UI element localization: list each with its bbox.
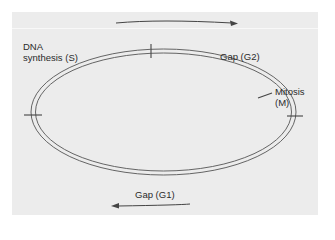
cycle-inner-ring xyxy=(36,53,292,171)
arrow-top-right-icon xyxy=(116,21,238,27)
cycle-outer-ring xyxy=(31,49,296,175)
tick-mitosis xyxy=(258,93,272,98)
phase-label-g1: Gap (G1) xyxy=(135,189,175,200)
phase-label-m: Mitosis (M) xyxy=(275,86,305,108)
phase-label-g2: Gap (G2) xyxy=(220,51,260,62)
phase-m-line2: (M) xyxy=(275,97,305,108)
phase-g2-line1: Gap (G2) xyxy=(220,51,260,62)
phase-m-line1: Mitosis xyxy=(275,86,305,97)
phase-label-s: DNA synthesis (S) xyxy=(23,41,78,63)
phase-s-line1: DNA xyxy=(23,41,78,52)
phase-s-line2: synthesis (S) xyxy=(23,52,78,63)
phase-g1-line1: Gap (G1) xyxy=(135,189,175,200)
arrow-bottom-left-icon xyxy=(111,203,190,209)
